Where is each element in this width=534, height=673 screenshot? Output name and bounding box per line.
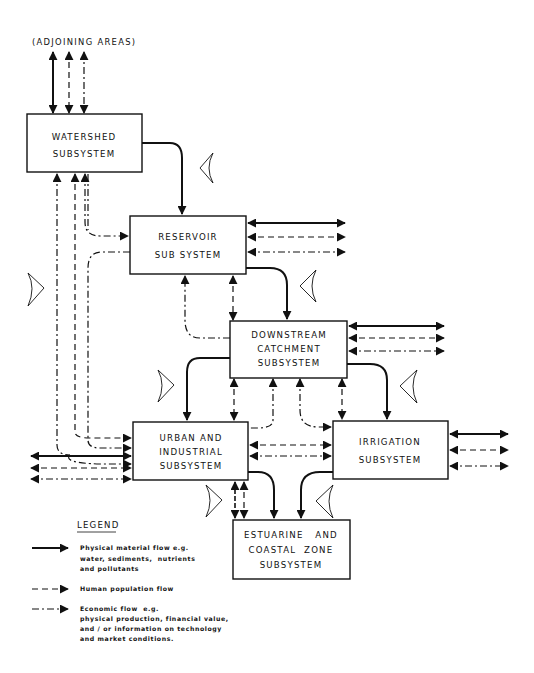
estuarine-label-2: COASTAL ZONE — [249, 545, 334, 555]
watershed-label-1: WATERSHED — [52, 132, 117, 142]
chevron-right-icon — [206, 485, 222, 517]
flow-downstream-reservoir-econ — [185, 276, 230, 338]
legend-economic-text-1: Economic flow e.g. — [80, 605, 159, 613]
reservoir-subsystem-box: RESERVOIR SUB SYSTEM — [130, 216, 246, 274]
flow-downstream-irrigation-econ — [300, 379, 331, 427]
chevron-right-icon — [158, 370, 174, 402]
flow-watershed-urban-human — [75, 174, 131, 438]
chevron-left-icon — [400, 370, 417, 403]
watershed-subsystem-box: WATERSHED SUBSYSTEM — [27, 114, 142, 172]
reservoir-label-2: SUB SYSTEM — [155, 250, 222, 260]
chevron-right-icon — [28, 273, 44, 306]
chevron-left-icon — [316, 485, 333, 518]
legend-physical-text-1: Physical material flow e.g. — [80, 544, 189, 552]
legend-physical-text-3: and pollutants — [80, 565, 139, 573]
flow-downstream-urban — [187, 358, 230, 420]
irrigation-outflows — [450, 434, 508, 466]
flow-reservoir-downstream — [246, 268, 287, 319]
flow-watershed-reservoir — [142, 143, 182, 214]
urban-label-3: SUBSYSTEM — [160, 461, 223, 471]
estuarine-label-1: ESTUARINE AND — [244, 530, 338, 540]
legend-economic-text-2: physical production, financial value, — [80, 615, 229, 623]
flow-downstream-urban-econ — [250, 379, 273, 428]
estuarine-label-3: SUBSYSTEM — [260, 560, 323, 570]
reservoir-outflows — [248, 223, 345, 252]
flow-reservoir-urban-econ — [88, 252, 131, 448]
irrigation-label-2: SUBSYSTEM — [359, 455, 422, 465]
adjoining-areas-label: (ADJOINING AREAS) — [32, 37, 136, 47]
downstream-label-2: CATCHMENT — [257, 344, 321, 354]
urban-subsystem-box: URBAN AND INDUSTRIAL SUBSYSTEM — [133, 422, 248, 480]
flow-watershed-reservoir-econ — [85, 174, 128, 236]
legend-economic-text-3: and / or information on technology — [80, 625, 222, 633]
downstream-label-1: DOWNSTREAM — [251, 330, 327, 340]
urban-label-1: URBAN AND — [160, 433, 223, 443]
subsystem-flow-diagram: (ADJOINING AREAS) — [0, 0, 534, 673]
chevron-left-icon — [200, 153, 213, 183]
irrigation-subsystem-box: IRRIGATION SUBSYSTEM — [333, 421, 448, 479]
legend: LEGEND Physical material flow e.g. water… — [32, 520, 229, 642]
downstream-label-3: SUBSYSTEM — [258, 358, 321, 368]
flow-watershed-urban-econ-outer — [57, 174, 70, 455]
legend-economic-text-4: and market conditions. — [80, 635, 174, 642]
legend-physical-text-2: water, sediments, nutrients — [80, 555, 195, 562]
downstream-subsystem-box: DOWNSTREAM CATCHMENT SUBSYSTEM — [230, 321, 347, 378]
adjoining-flows — [53, 52, 84, 113]
flow-downstream-irrigation — [347, 364, 387, 419]
watershed-label-2: SUBSYSTEM — [53, 149, 116, 159]
legend-title: LEGEND — [77, 520, 120, 530]
urban-left-flows — [31, 456, 131, 479]
chevron-left-icon — [300, 270, 316, 302]
estuarine-subsystem-box: ESTUARINE AND COASTAL ZONE SUBSYSTEM — [233, 520, 350, 579]
downstream-outflows — [349, 326, 444, 351]
flow-urban-estuarine — [248, 472, 274, 518]
legend-human-text: Human population flow — [80, 585, 174, 593]
urban-label-2: INDUSTRIAL — [159, 447, 223, 457]
irrigation-label-1: IRRIGATION — [359, 437, 421, 447]
reservoir-label-1: RESERVOIR — [158, 232, 218, 242]
